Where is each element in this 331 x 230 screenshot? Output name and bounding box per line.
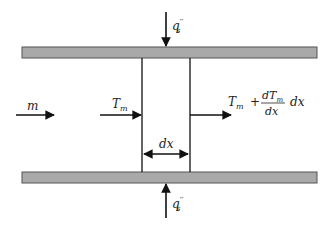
bottom-wall: [22, 172, 317, 183]
heat-flux-top-label: q′′s: [172, 17, 184, 35]
svg-text:dx: dx: [265, 105, 279, 118]
svg-text:Tm: Tm: [228, 95, 244, 111]
svg-text:+: +: [250, 95, 260, 109]
mass-flow-label: m: [27, 99, 38, 113]
element-width-label: dx: [159, 137, 174, 151]
svg-text:dTm: dTm: [262, 89, 283, 104]
heat-flux-bottom-label: q′′s: [172, 195, 184, 213]
control-volume-diagram: q′′s q′′s m Tm Tm + dTm dx dx dx: [0, 0, 331, 230]
top-wall: [22, 47, 317, 58]
inlet-temp-label: Tm: [112, 97, 128, 113]
outlet-temp-expression: Tm + dTm dx dx: [228, 89, 305, 118]
svg-text:dx: dx: [290, 95, 305, 109]
